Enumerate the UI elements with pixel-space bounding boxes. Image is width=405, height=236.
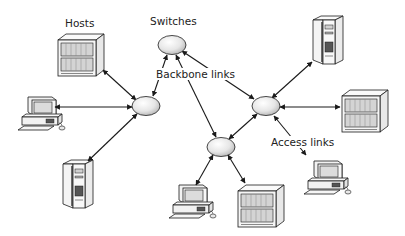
switch-left [132,97,160,116]
host-server-cabinet-top-left [58,34,104,76]
host-desktop-pc-left [18,97,65,130]
label-backbone-links: Backbone links [155,68,236,80]
switch-right [252,97,280,116]
label-hosts: Hosts [64,17,95,29]
host-tower-server-bottom-left [63,160,93,208]
label-access-links: Access links [270,136,335,148]
host-desktop-pc-bottom [169,185,216,218]
backbone-links [153,51,257,139]
label-switches: Switches [149,15,198,27]
host-server-cabinet-right [342,90,388,132]
network-diagram [0,0,405,236]
host-tower-server-top-right [313,16,343,64]
switch-bottom [207,138,235,157]
host-server-cabinet-bottom [238,185,284,227]
host-desktop-pc-bottom-right [304,161,351,194]
switch-top [158,36,186,55]
access-links [55,62,340,185]
